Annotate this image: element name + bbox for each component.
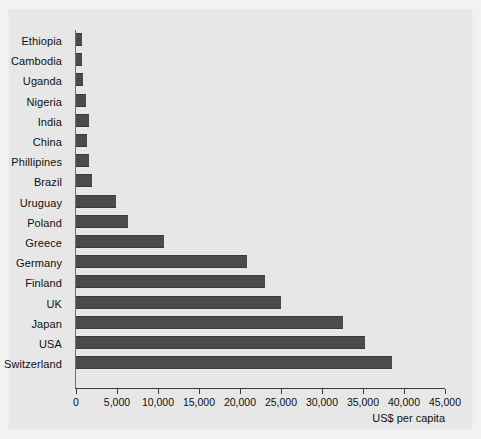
bar: [76, 73, 83, 86]
x-tick: [240, 389, 241, 394]
category-label: Greece: [25, 237, 62, 250]
x-tick: [322, 389, 323, 394]
x-tick: [158, 389, 159, 394]
horizontal-bar-chart: EthiopiaCambodiaUgandaNigeriaIndiaChinaP…: [0, 0, 481, 439]
x-tick: [199, 389, 200, 394]
category-label: UK: [47, 298, 62, 311]
bar: [76, 195, 116, 208]
bar: [76, 255, 247, 268]
category-axis-labels: EthiopiaCambodiaUgandaNigeriaIndiaChinaP…: [0, 0, 70, 439]
category-label: Switzerland: [4, 358, 62, 371]
bar: [76, 174, 92, 187]
x-axis-line: [75, 388, 445, 389]
bar: [76, 53, 82, 66]
y-axis-line: [75, 30, 76, 388]
bar: [76, 316, 343, 329]
x-tick-label: 0: [73, 396, 79, 408]
bar: [76, 215, 128, 228]
category-label: Finland: [25, 277, 62, 290]
bar: [76, 154, 89, 167]
x-axis-title: US$ per capita: [372, 412, 445, 424]
bar: [76, 134, 87, 147]
category-label: Uganda: [23, 75, 62, 88]
bar-chart-screenshot: EthiopiaCambodiaUgandaNigeriaIndiaChinaP…: [0, 0, 481, 439]
category-label: Japan: [32, 318, 62, 331]
x-tick-label: 20,000: [224, 396, 256, 408]
category-label: Phillipines: [11, 156, 62, 169]
x-tick-label: 5,000: [104, 396, 130, 408]
x-tick-label: 10,000: [142, 396, 174, 408]
category-label: Cambodia: [11, 55, 62, 68]
x-tick: [117, 389, 118, 394]
bar: [76, 275, 265, 288]
x-tick-label: 35,000: [347, 396, 379, 408]
bar: [76, 296, 281, 309]
x-tick: [76, 389, 77, 394]
category-label: USA: [39, 338, 62, 351]
category-label: India: [38, 116, 62, 129]
category-label: China: [33, 136, 62, 149]
bar: [76, 33, 82, 46]
category-label: Germany: [16, 257, 62, 270]
category-label: Brazil: [34, 176, 62, 189]
x-tick: [363, 389, 364, 394]
x-tick: [445, 389, 446, 394]
category-label: Ethiopia: [21, 35, 62, 48]
x-tick: [404, 389, 405, 394]
category-label: Poland: [27, 217, 62, 230]
x-tick: [281, 389, 282, 394]
category-label: Uruguay: [20, 197, 62, 210]
plot-area: [76, 33, 445, 388]
x-tick-label: 40,000: [388, 396, 420, 408]
x-tick-label: 45,000: [429, 396, 461, 408]
bar: [76, 114, 89, 127]
x-tick-label: 15,000: [183, 396, 215, 408]
bar: [76, 336, 365, 349]
category-label: Nigeria: [26, 96, 62, 109]
bar: [76, 94, 86, 107]
bar: [76, 235, 164, 248]
x-tick-label: 25,000: [265, 396, 297, 408]
bar: [76, 356, 392, 369]
x-tick-label: 30,000: [306, 396, 338, 408]
